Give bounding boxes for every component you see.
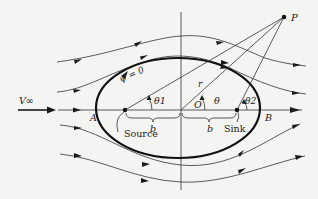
source-dot (123, 108, 127, 112)
streamline-upper-outer (57, 36, 306, 66)
brace-left-b (126, 113, 180, 122)
theta-label: θ (214, 95, 220, 106)
free-stream-label: V∞ (19, 95, 34, 106)
free-stream-arrowhead (47, 107, 56, 114)
stagnation-a-label: A (89, 112, 97, 123)
theta1-label: θ1 (154, 95, 166, 106)
streamline-upper-inner (57, 56, 306, 94)
point-p-dot (282, 15, 286, 19)
sink-dot (235, 108, 239, 112)
sink-label: Sink (224, 123, 246, 134)
b-right-label: b (207, 123, 213, 134)
streamline-lower-inner (60, 124, 300, 166)
rankine-oval-diagram: V∞ P ψ = 0 r θ1 O θ θ2 A B b b Source Si… (0, 0, 318, 199)
sink-leader (237, 112, 239, 122)
theta2-label: θ2 (245, 96, 256, 106)
brace-right-b (182, 113, 236, 122)
source-label: Source (124, 128, 158, 139)
stagnation-b-label: B (264, 112, 272, 123)
ray-origin-to-p (181, 17, 284, 110)
source-leader (117, 112, 124, 132)
radius-label: r (198, 79, 203, 89)
point-p-label: P (290, 12, 298, 23)
axis-arrow-right (290, 107, 300, 113)
origin-label: O (194, 99, 202, 110)
axis-arrow-mid-left (73, 108, 81, 113)
